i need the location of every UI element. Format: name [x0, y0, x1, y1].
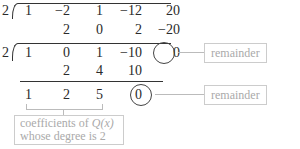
product-2-0: 2	[40, 64, 70, 78]
result-0: 1	[2, 88, 32, 102]
result-2: 5	[73, 88, 103, 102]
dividend-1-4: 20	[150, 4, 180, 18]
dividend-1-1: −2	[40, 4, 70, 18]
dividend-2-2: 1	[73, 46, 103, 60]
remainder-connector-1	[178, 52, 204, 53]
product-1-1: 0	[73, 23, 103, 37]
coefficients-label: coefficients of Q(x) whose degree is 2	[14, 115, 124, 145]
dividend-2-1: 0	[40, 46, 70, 60]
dividend-1-2: 1	[73, 4, 103, 18]
dividend-1-0: 1	[2, 4, 32, 18]
dividend-1-3: −12	[112, 4, 142, 18]
result-line	[20, 81, 163, 82]
remainder-circle-2	[130, 84, 152, 106]
coefficients-label-prefix: coefficients of	[20, 116, 92, 130]
result-1: 2	[40, 88, 70, 102]
dividend-2-3: −10	[112, 46, 142, 60]
remainder-circle-1	[153, 42, 175, 64]
remainder-label-2: remainder	[204, 85, 267, 105]
remainder-label-1: remainder	[204, 43, 267, 63]
dividend-2-0: 1	[2, 46, 32, 60]
coefficients-label-q: Q(x)	[92, 116, 114, 130]
coefficients-brace	[26, 104, 103, 110]
product-2-2: 10	[112, 64, 142, 78]
remainder-connector-2	[155, 94, 204, 95]
product-1-3: −20	[150, 23, 180, 37]
product-1-2: 2	[112, 23, 142, 37]
product-1-0: 2	[40, 23, 70, 37]
coefficients-label-line2: whose degree is 2	[20, 129, 106, 143]
product-2-1: 4	[73, 64, 103, 78]
